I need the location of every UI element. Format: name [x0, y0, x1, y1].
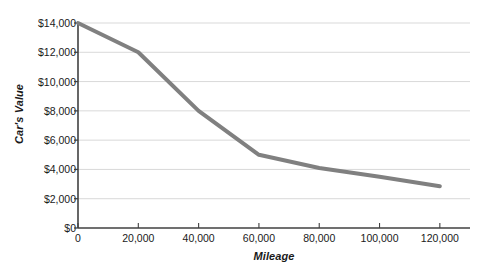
series-line [78, 23, 440, 186]
x-axis-tick-label: 120,000 [421, 232, 459, 244]
x-axis-title-label: Mileage [253, 250, 294, 262]
x-axis-tick-label: 80,000 [303, 232, 335, 244]
plot-area [0, 0, 481, 280]
x-axis-tick-label: 0 [75, 232, 81, 244]
x-axis-title: Mileage [78, 250, 470, 262]
x-axis-tick-label: 60,000 [243, 232, 275, 244]
line-chart: Car's Value $0$2,000$4,000$6,000$8,000$1… [0, 0, 481, 280]
x-axis-tick-label: 40,000 [183, 232, 215, 244]
x-axis-tick-label: 20,000 [122, 232, 154, 244]
x-axis-tick-label: 100,000 [361, 232, 399, 244]
